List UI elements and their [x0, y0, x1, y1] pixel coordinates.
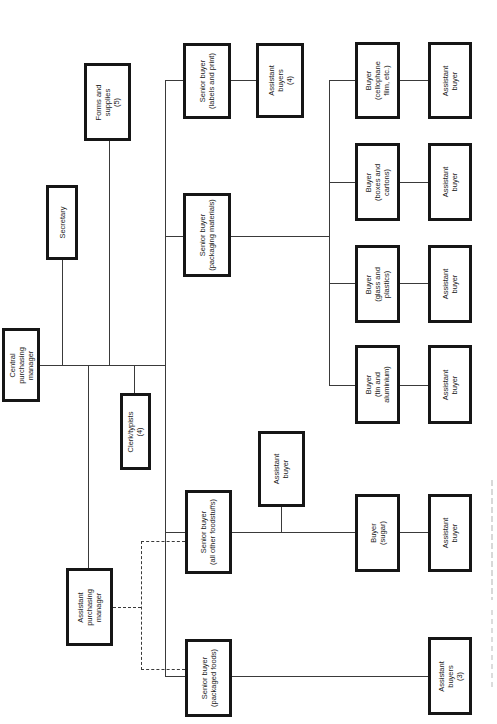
connector-senior-spine — [165, 80, 166, 676]
connector-secretary — [62, 260, 63, 365]
dotted-apm-sb-packaged — [141, 669, 185, 670]
box-senior-buyer-packaged-foods: Senior buyer (packaged foods) — [185, 639, 232, 717]
connector-sb-labels — [165, 80, 183, 81]
connector-sb-packaged — [165, 676, 185, 677]
label-assistant-buyers-packaged: Assistant buyers (3) — [437, 661, 464, 691]
label-senior-buyer-packaged-foods: Senior buyer (packaged foods) — [200, 649, 218, 707]
box-central-purchasing-manager: Central purchasing manager — [2, 328, 40, 402]
box-assistant-buyer-sugar: Assistant buyer — [428, 494, 472, 572]
label-buyer-tin: Buyer (tin and aluminium) — [364, 366, 391, 403]
label-secretary: Secretary — [58, 206, 67, 238]
box-senior-buyer-other-foodstuffs: Senior buyer (all other foodstuffs) — [185, 490, 232, 574]
dotted-apm-out — [113, 607, 141, 608]
label-buyer-sugar: Buyer (sugar) — [368, 521, 386, 545]
label-assistant-buyer-sugar: Assistant buyer — [441, 518, 459, 548]
box-assistant-buyer-boxes: Assistant buyer — [428, 143, 472, 221]
box-forms-and-supplies: Forms and supplies (5) — [84, 63, 131, 141]
connector-forms — [109, 141, 110, 365]
box-assistant-buyer-tin: Assistant buyer — [428, 345, 472, 424]
connector-cpm-trunk — [40, 365, 166, 366]
label-senior-buyer-labels: Senior buyer (labels and print) — [198, 53, 216, 109]
connector-ab-boxes — [400, 182, 428, 183]
box-buyer-cellophane: Buyer (cellophane film, etc.) — [355, 42, 400, 119]
box-assistant-buyer-cellophane: Assistant buyer — [428, 42, 472, 119]
label-buyer-boxes: Buyer (boxes and cartons) — [364, 163, 391, 200]
label-assistant-purchasing-manager: Assistant purchasing manager — [76, 589, 103, 626]
box-assistant-buyer-glass: Assistant buyer — [428, 245, 472, 323]
box-senior-buyer-packaging: Senior buyer (packaging materials) — [183, 193, 231, 277]
label-assistant-buyer-boxes: Assistant buyer — [441, 167, 459, 197]
connector-ab-tin — [400, 385, 428, 386]
connector-ab-glass — [400, 283, 428, 284]
box-assistant-buyer-other: Assistant buyer — [258, 431, 305, 507]
box-buyer-sugar: Buyer (sugar) — [355, 494, 400, 572]
box-assistant-buyers-packaged: Assistant buyers (3) — [428, 637, 472, 715]
box-assistant-purchasing-manager: Assistant purchasing manager — [66, 568, 113, 646]
box-clerk-typists: Clerk/typists (4) — [120, 393, 151, 470]
connector-packaged-trunk — [232, 676, 428, 677]
label-assistant-buyer-tin: Assistant buyer — [441, 369, 459, 399]
dotted-apm-spine — [141, 541, 142, 670]
label-assistant-buyer-glass: Assistant buyer — [441, 269, 459, 299]
connector-sb-other — [165, 532, 185, 533]
box-buyer-glass: Buyer (glass and plastics) — [355, 245, 400, 323]
connector-b-tin — [329, 385, 355, 386]
label-senior-buyer-other-foodstuffs: Senior buyer (all other foodstuffs) — [200, 499, 218, 565]
box-senior-buyer-labels: Senior buyer (labels and print) — [183, 43, 231, 119]
box-assistant-buyers-labels: Assistant buyers (4) — [256, 43, 304, 118]
connector-b-glass — [329, 283, 355, 284]
label-assistant-buyers-labels: Assistant buyers (4) — [267, 65, 294, 95]
label-senior-buyer-packaging: Senior buyer (packaging materials) — [198, 199, 216, 271]
connector-ab-sugar — [400, 532, 428, 533]
connector-pack-trunk — [231, 236, 330, 237]
label-buyer-glass: Buyer (glass and plastics) — [364, 267, 391, 302]
label-assistant-buyer-cellophane: Assistant buyer — [441, 65, 459, 95]
box-buyer-tin: Buyer (tin and aluminium) — [355, 345, 400, 424]
connector-b-cello — [329, 80, 355, 81]
box-secretary: Secretary — [46, 185, 78, 260]
label-buyer-cellophane: Buyer (cellophane film, etc.) — [364, 61, 391, 100]
connector-other-trunk — [232, 532, 355, 533]
connector-clerk — [134, 365, 135, 393]
dotted-apm-sb-other — [141, 541, 185, 542]
connector-apm — [88, 365, 89, 568]
connector-sb-pack — [165, 236, 183, 237]
label-central-purchasing-manager: Central purchasing manager — [8, 347, 35, 384]
box-buyer-boxes: Buyer (boxes and cartons) — [355, 143, 400, 221]
figure-caption-marks — [491, 480, 493, 600]
connector-ab-other — [281, 507, 282, 532]
connector-ab-cello — [400, 80, 428, 81]
connector-ab-labels — [231, 80, 256, 81]
connector-b-boxes — [329, 182, 355, 183]
label-assistant-buyer-other: Assistant buyer — [273, 454, 291, 484]
label-clerk-typists: Clerk/typists (4) — [127, 411, 145, 452]
label-forms-and-supplies: Forms and supplies (5) — [94, 84, 121, 120]
figure-caption-marks-2 — [491, 610, 493, 690]
connector-buyer-spine — [329, 80, 330, 385]
